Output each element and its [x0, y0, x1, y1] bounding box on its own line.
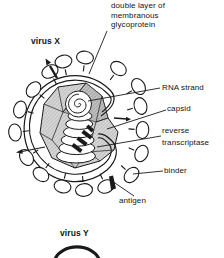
callout-binder: binder	[164, 166, 187, 176]
callout-rna-strand: RNA strand	[162, 83, 204, 93]
callout-glycoprotein: double layer of membranous glycoprotein	[111, 1, 165, 30]
virus-structure-figure: double layer of membranous glycoprotein …	[0, 0, 224, 258]
leader-glycoprotein	[89, 31, 107, 74]
direction-arrow-right-icon	[114, 117, 131, 122]
callout-reverse-transcriptase: reverse transcriptase	[162, 125, 209, 149]
virus-x-title: virus X	[31, 37, 60, 47]
callout-antigen: antigen	[119, 196, 146, 206]
virus-y-title: virus Y	[60, 229, 89, 239]
virus-y-outline-arc	[55, 247, 99, 258]
callout-capsid: capsid	[167, 104, 191, 114]
